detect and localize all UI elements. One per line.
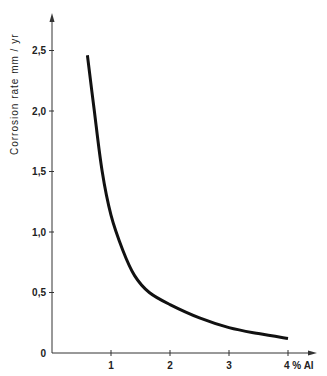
- y-axis-arrow-icon: [50, 13, 55, 22]
- y-tick-label: 2,5: [32, 45, 46, 56]
- corrosion-curve: [87, 55, 288, 338]
- y-tick-label: 0: [40, 348, 46, 359]
- y-tick-label: 1,0: [32, 227, 46, 238]
- x-tick-label: 2: [167, 360, 173, 371]
- y-axis-title: Corrosion rate mm / yr: [9, 34, 20, 155]
- y-ticks: 00,51,01,52,02,5: [32, 45, 54, 359]
- y-tick-label: 0,5: [32, 287, 46, 298]
- corrosion-rate-chart: 00,51,01,52,02,5 1234 % Al Corrosion rat…: [0, 0, 327, 376]
- x-tick-label: 4 % Al: [284, 360, 314, 371]
- y-axis: [50, 13, 55, 353]
- x-axis: [52, 351, 317, 356]
- y-tick-label: 1,5: [32, 166, 46, 177]
- x-tick-label: 1: [108, 360, 114, 371]
- y-tick-label: 2,0: [32, 106, 46, 117]
- x-tick-label: 3: [226, 360, 232, 371]
- x-axis-arrow-icon: [308, 351, 317, 356]
